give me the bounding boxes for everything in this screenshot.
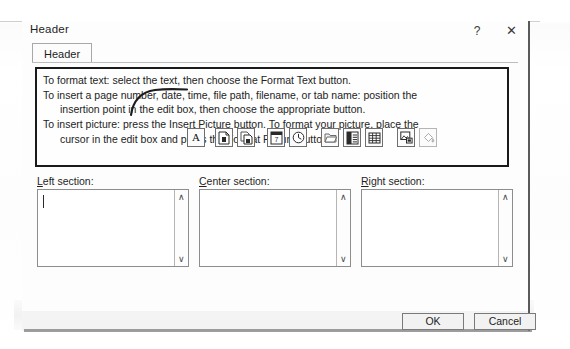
svg-text:7: 7	[274, 136, 278, 143]
help-icon[interactable]: ?	[468, 23, 486, 39]
insert-number-of-pages-button[interactable]	[237, 128, 255, 147]
dialog-footer: OK Cancel	[22, 311, 528, 331]
dialog-body: To format text: select the text, then ch…	[32, 63, 518, 311]
left-section-box[interactable]: ∧ ∨	[37, 189, 189, 267]
picture-icon	[400, 131, 413, 144]
close-icon[interactable]: ✕	[502, 23, 520, 39]
insert-date-button[interactable]: 7	[267, 128, 285, 147]
file-name-icon	[346, 131, 359, 145]
instruction-line-2-cont: insertion point in the edit box, then ch…	[43, 102, 483, 116]
instructions-text: To format text: select the text, then ch…	[43, 73, 483, 147]
number-of-pages-icon	[240, 131, 253, 145]
right-section-scrollbar[interactable]: ∧ ∨	[498, 190, 512, 266]
dialog-title: Header	[30, 23, 69, 35]
format-text-button[interactable]: A	[187, 128, 205, 147]
scroll-down-icon[interactable]: ∨	[175, 253, 188, 265]
insert-file-name-button[interactable]	[343, 128, 361, 147]
folder-icon	[324, 131, 337, 144]
ok-button[interactable]: OK	[402, 313, 464, 330]
cancel-button[interactable]: Cancel	[474, 313, 536, 330]
left-section-label: Left section:	[37, 175, 94, 187]
scroll-up-icon[interactable]: ∧	[175, 191, 188, 203]
dialog-titlebar: Header ? ✕	[22, 21, 528, 43]
tabstrip: Header	[32, 43, 518, 63]
instruction-line-3: To insert picture: press the Insert Pict…	[43, 117, 483, 131]
font-a-icon: A	[192, 129, 200, 146]
center-section-label: Center section:	[199, 175, 270, 187]
center-section-input[interactable]	[200, 190, 337, 266]
text-caret	[43, 195, 44, 208]
page-number-icon	[218, 131, 230, 145]
right-section-label: Right section:	[361, 175, 425, 187]
instructions-box: To format text: select the text, then ch…	[35, 67, 509, 167]
scroll-down-icon[interactable]: ∨	[499, 253, 512, 265]
center-section-box[interactable]: ∧ ∨	[199, 189, 351, 267]
left-section-input[interactable]	[38, 190, 175, 266]
scroll-down-icon[interactable]: ∨	[337, 253, 350, 265]
left-section-scrollbar[interactable]: ∧ ∨	[174, 190, 188, 266]
insert-page-number-button[interactable]	[215, 128, 233, 147]
tab-header[interactable]: Header	[32, 43, 92, 63]
header-dialog: Header ? ✕ Header To format text: select…	[22, 21, 530, 331]
right-section-box[interactable]: ∧ ∨	[361, 189, 513, 267]
insert-time-button[interactable]	[289, 128, 307, 147]
scroll-up-icon[interactable]: ∧	[337, 191, 350, 203]
center-section-scrollbar[interactable]: ∧ ∨	[336, 190, 350, 266]
dialog-drop-shadow	[24, 329, 532, 332]
sheet-grid-icon	[368, 132, 381, 144]
instruction-line-2: To insert a page number, date, time, fil…	[43, 88, 483, 102]
instruction-line-1: To format text: select the text, then ch…	[43, 73, 483, 87]
scroll-up-icon[interactable]: ∧	[499, 191, 512, 203]
insert-file-path-button[interactable]	[321, 128, 339, 147]
right-section-input[interactable]	[362, 190, 499, 266]
format-picture-button[interactable]	[419, 128, 437, 147]
paint-bucket-icon	[422, 131, 435, 144]
clock-icon	[292, 131, 305, 144]
insert-sheet-name-button[interactable]	[365, 128, 383, 147]
calendar-icon: 7	[270, 131, 283, 145]
instruction-line-3-cont: cursor in the edit box and press the For…	[43, 132, 483, 146]
insert-picture-button[interactable]	[397, 128, 415, 147]
